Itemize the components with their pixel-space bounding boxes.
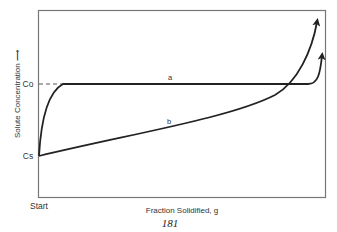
y-axis-label: Solute Concentration ⟶: [13, 49, 22, 138]
x-axis-label: Fraction Solidified, g: [146, 206, 218, 215]
y-tick-cs: Cs: [23, 151, 33, 161]
curve-b-label: b: [167, 117, 171, 126]
y-tick-co: Co: [23, 79, 34, 89]
curve-a-label: a: [168, 73, 173, 82]
solute-concentration-chart: Co Cs Start a b Solute Concentration ⟶ F…: [0, 0, 337, 232]
curve-b: [39, 22, 317, 156]
plot-frame: [39, 11, 326, 198]
curve-a: [39, 56, 322, 156]
page-number: 181: [162, 217, 179, 229]
x-tick-start: Start: [30, 201, 49, 211]
